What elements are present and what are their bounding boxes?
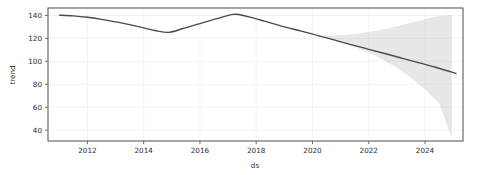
tick-label-x: 2018 (247, 146, 266, 155)
tick-label-x: 2020 (303, 146, 322, 155)
trend-forecast-chart: 406080100120140 201220142016201820202022… (0, 0, 485, 175)
tick-label-x: 2024 (416, 146, 435, 155)
tick-label-x: 2014 (135, 146, 154, 155)
tick-label-x: 2012 (78, 146, 96, 155)
x-axis-ticks: 2012201420162018202020222024 (78, 141, 434, 155)
y-axis-label: trend (8, 65, 17, 84)
tick-label-x: 2016 (191, 146, 210, 155)
tick-label-y: 60 (33, 103, 43, 112)
tick-label-y: 140 (28, 11, 42, 20)
tick-label-y: 120 (28, 34, 42, 43)
tick-label-x: 2022 (360, 146, 378, 155)
tick-label-y: 40 (33, 126, 43, 135)
x-axis-label: ds (251, 161, 260, 170)
chart-canvas: 406080100120140 201220142016201820202022… (0, 0, 485, 175)
tick-label-y: 80 (33, 80, 43, 89)
y-axis-ticks: 406080100120140 (28, 11, 48, 135)
tick-label-y: 100 (28, 57, 42, 66)
